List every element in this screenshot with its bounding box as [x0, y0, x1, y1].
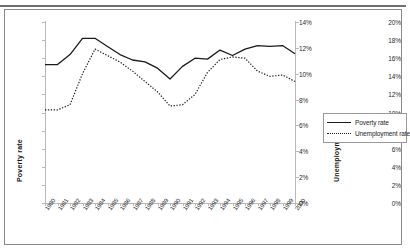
- chart-frame: Poverty rate Unemployment rate 0%2%4%6%8…: [4, 9, 402, 245]
- legend-label: Poverty rate: [355, 119, 389, 126]
- dotted-line-icon: [327, 133, 351, 134]
- header-rule: [0, 5, 406, 7]
- legend-item-poverty-rate: Poverty rate: [327, 117, 404, 128]
- legend-item-unemployment-rate: Unemployment rate: [327, 128, 404, 139]
- legend-label: Unemployment rate: [355, 130, 410, 137]
- solid-line-icon: [327, 122, 351, 123]
- chart-legend: Poverty rate Unemployment rate: [323, 113, 407, 143]
- series-line-poverty-rate: [45, 38, 295, 79]
